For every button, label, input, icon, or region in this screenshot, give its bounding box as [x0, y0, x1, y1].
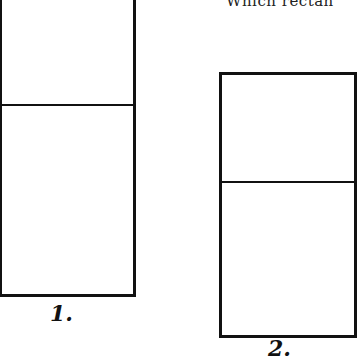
rectangle-1-label: 1. — [50, 300, 73, 326]
rectangle-2[interactable] — [219, 72, 357, 338]
question-text: Which rectan — [226, 0, 334, 10]
rectangle-1-divider — [2, 104, 133, 106]
rectangle-2-label: 2. — [268, 335, 291, 361]
rectangle-1[interactable] — [0, 0, 136, 297]
rectangle-2-divider — [222, 181, 354, 183]
